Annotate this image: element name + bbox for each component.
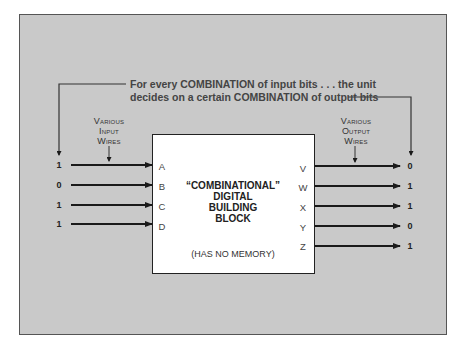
output-value-z: 1 xyxy=(407,241,412,251)
block-title-line-3: BUILDING xyxy=(186,202,280,213)
pin-b: B xyxy=(159,181,165,192)
output-value-x: 1 xyxy=(407,201,412,211)
output-label-line-2: Output xyxy=(341,126,371,136)
block-title: “COMBINATIONAL” DIGITAL BUILDING BLOCK xyxy=(186,180,280,224)
block-title-line-2: DIGITAL xyxy=(186,191,280,202)
output-wires-label: Various Output Wires xyxy=(341,116,371,146)
output-value-v: 0 xyxy=(407,161,412,171)
output-label-line-3: Wires xyxy=(341,136,371,146)
block-note: (HAS NO MEMORY) xyxy=(191,249,274,259)
input-wires-label: Various Input Wires xyxy=(94,116,124,146)
output-label-line-1: Various xyxy=(341,116,371,126)
input-label-line-3: Wires xyxy=(94,136,124,146)
input-value-d: 1 xyxy=(56,219,61,229)
pin-d: D xyxy=(159,221,166,232)
pin-w: W xyxy=(299,182,308,193)
pin-z: Z xyxy=(300,241,306,252)
block-title-line-1: “COMBINATIONAL” xyxy=(186,180,280,191)
input-value-b: 0 xyxy=(56,180,61,190)
output-value-w: 1 xyxy=(407,181,412,191)
pin-c: C xyxy=(159,201,166,212)
output-value-y: 0 xyxy=(407,221,412,231)
input-value-a: 1 xyxy=(56,160,61,170)
pin-v: V xyxy=(300,163,306,174)
input-label-line-2: Input xyxy=(94,126,124,136)
input-value-c: 1 xyxy=(56,200,61,210)
pin-a: A xyxy=(159,161,165,172)
block-title-line-4: BLOCK xyxy=(186,213,280,224)
pin-x: X xyxy=(300,202,306,213)
input-label-line-1: Various xyxy=(94,116,124,126)
caption-line-2: decides on a certain COMBINATION of outp… xyxy=(130,91,378,104)
pin-y: Y xyxy=(300,222,306,233)
caption-line-1: For every COMBINATION of input bits . . … xyxy=(130,78,376,91)
